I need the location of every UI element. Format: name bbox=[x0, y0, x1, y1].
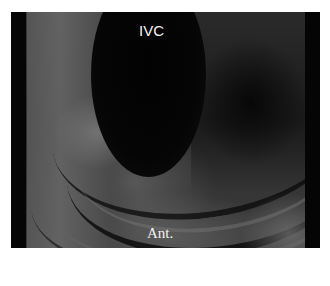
anterior-label: Ant. bbox=[147, 225, 173, 242]
left-border-band bbox=[11, 12, 26, 248]
right-border-band bbox=[305, 12, 320, 248]
medical-image: IVC Ant. bbox=[11, 12, 320, 248]
ivc-label: IVC bbox=[139, 22, 164, 39]
